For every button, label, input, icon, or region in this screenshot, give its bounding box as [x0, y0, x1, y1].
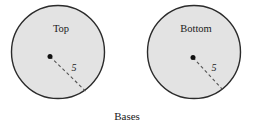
bases-diagram: Top 5 Bottom 5 Bases: [0, 0, 255, 129]
top-base-center-dot: [48, 54, 53, 59]
top-base-label: Top: [53, 23, 69, 34]
bottom-base-center-dot: [191, 55, 196, 60]
bottom-base-circle: [148, 6, 241, 99]
top-base-circle: [12, 6, 105, 99]
bases-figure-container: Top 5 Bottom 5 Bases: [0, 0, 255, 129]
bottom-base-radius-label: 5: [212, 62, 217, 73]
top-base-radius-label: 5: [72, 62, 77, 73]
bottom-base-group: Bottom 5: [148, 6, 241, 99]
figure-caption: Bases: [114, 110, 140, 122]
top-base-group: Top 5: [12, 6, 105, 99]
bottom-base-label: Bottom: [180, 23, 212, 34]
